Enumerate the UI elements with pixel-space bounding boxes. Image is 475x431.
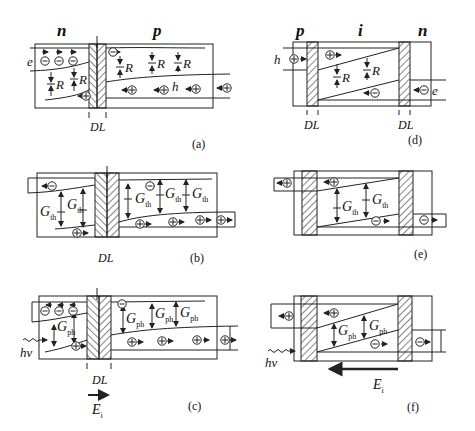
rate-label-gth: Gth [40, 205, 56, 222]
field-label: Ei [373, 378, 384, 395]
depletion-layer-label: DL [98, 252, 113, 264]
panel-f [268, 296, 446, 369]
caption-e: (e) [414, 248, 427, 260]
caption-b: (b) [190, 252, 204, 264]
field-label: Ei [92, 403, 103, 420]
photon-label: hν [20, 346, 32, 359]
region-label-p: p [296, 22, 305, 39]
rate-label-gth: Gth [192, 187, 208, 204]
rate-label-r: R [125, 61, 133, 74]
rate-label-gph: Gph [155, 307, 173, 324]
caption-d: (d) [408, 134, 422, 146]
panel-d [283, 42, 446, 115]
caption-a: (a) [192, 138, 205, 150]
diagram-canvas [0, 0, 475, 431]
depletion-layer-label: DL [92, 374, 107, 386]
rate-label-r: R [372, 64, 380, 77]
carrier-label-e: e [27, 55, 33, 68]
rate-label-gph: Gph [57, 320, 75, 337]
depletion-layer-label: DL [304, 119, 319, 131]
rate-label-r: R [157, 57, 165, 70]
rate-label-gph: Gph [338, 324, 356, 341]
carrier-label-h: h [274, 53, 281, 66]
rate-label-gth: Gth [135, 192, 151, 209]
photon-label: hν [265, 356, 277, 369]
region-label-n: n [57, 22, 66, 39]
panel-e [274, 171, 446, 235]
depletion-layer-label: DL [398, 119, 413, 131]
rate-label-gth: Gth [67, 198, 83, 215]
rate-label-gph: Gph [126, 312, 144, 329]
rate-label-gth: Gth [165, 187, 181, 204]
rate-label-r: R [79, 73, 87, 86]
rate-label-gth: Gth [372, 193, 388, 210]
caption-f: (f) [407, 401, 419, 413]
carrier-label-e: e [432, 84, 438, 97]
rate-label-gph: Gph [180, 306, 198, 323]
rate-label-gth: Gth [342, 200, 358, 217]
carrier-label-h: h [172, 80, 179, 93]
rate-label-gph: Gph [369, 319, 387, 336]
region-label-p: p [153, 22, 162, 39]
rate-label-r: R [56, 78, 64, 91]
depletion-layer-label: DL [90, 121, 105, 133]
region-label-n: n [418, 22, 427, 39]
region-label-i: i [358, 22, 363, 39]
caption-c: (c) [188, 400, 201, 412]
rate-label-r: R [342, 71, 350, 84]
rate-label-r: R [183, 57, 191, 70]
